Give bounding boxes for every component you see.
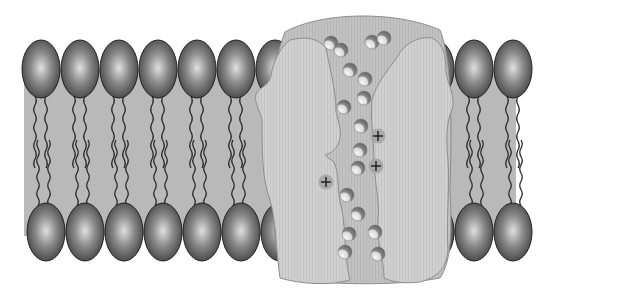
phospholipid-head <box>27 203 65 261</box>
phospholipid-head <box>144 203 182 261</box>
phospholipid-head <box>222 203 260 261</box>
ion-sphere <box>351 161 365 175</box>
ion-sphere <box>338 245 352 259</box>
ion-sphere <box>343 63 357 77</box>
ion-sphere <box>353 143 367 157</box>
ion-sphere <box>337 100 351 114</box>
positive-charge-icon <box>319 175 334 190</box>
positive-charge-icon <box>371 129 386 144</box>
phospholipid-head <box>494 203 532 261</box>
ion-sphere <box>358 72 372 86</box>
ion-sphere <box>342 227 356 241</box>
ion-sphere <box>357 91 371 105</box>
membrane-illustration <box>0 0 638 297</box>
phospholipid-head <box>183 203 221 261</box>
ion-sphere <box>351 207 365 221</box>
ion-sphere <box>371 247 385 261</box>
ion-sphere <box>340 188 354 202</box>
phospholipid-head <box>22 40 60 98</box>
phospholipid-head <box>455 40 493 98</box>
ion-channel-diagram <box>0 0 638 297</box>
phospholipid-head <box>100 40 138 98</box>
ion-sphere <box>334 43 348 57</box>
phospholipid-head <box>494 40 532 98</box>
phospholipid-head <box>105 203 143 261</box>
ion-sphere <box>368 225 382 239</box>
ion-sphere <box>354 119 368 133</box>
phospholipid-head <box>66 203 104 261</box>
phospholipid-head <box>217 40 255 98</box>
phospholipid-head <box>178 40 216 98</box>
phospholipid-head <box>61 40 99 98</box>
ion-sphere <box>377 31 391 45</box>
phospholipid-head <box>455 203 493 261</box>
positive-charge-icon <box>369 159 384 174</box>
phospholipid-head <box>139 40 177 98</box>
